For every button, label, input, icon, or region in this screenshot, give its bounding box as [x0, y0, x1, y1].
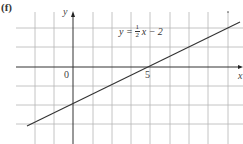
graph-canvas: [0, 0, 243, 144]
origin-label: 0: [64, 69, 69, 80]
equation-fraction: 1 2: [135, 24, 140, 39]
equation-rest: x − 2: [142, 26, 163, 37]
fraction-numerator: 1: [135, 24, 139, 31]
marker-dot: [227, 11, 229, 13]
equation-lhs: y =: [119, 26, 133, 37]
fraction-denominator: 2: [135, 32, 139, 39]
graph-figure: (f) y x 0 5 y = 1 2 x − 2: [0, 0, 243, 144]
x-axis-label: x: [238, 70, 242, 81]
equation-label: y = 1 2 x − 2: [119, 24, 163, 39]
y-axis-arrow-icon: [71, 11, 75, 17]
x-axis-arrow-icon: [238, 65, 243, 69]
part-label: (f): [1, 1, 12, 13]
x-tick-label-5: 5: [145, 69, 150, 80]
y-axis-label: y: [63, 6, 67, 17]
